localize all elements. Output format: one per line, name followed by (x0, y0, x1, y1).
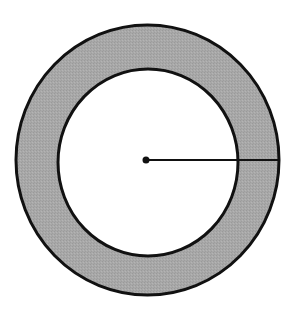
annulus-diagram (0, 0, 299, 314)
center-point (143, 157, 150, 164)
